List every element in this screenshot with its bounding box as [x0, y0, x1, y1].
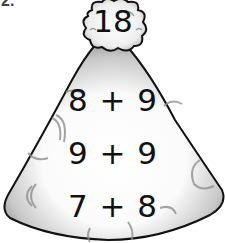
cloud-answer-number: 18: [88, 3, 138, 39]
expression-3: 7 + 8: [0, 188, 226, 224]
expression-1: 8 + 9: [0, 82, 226, 118]
expression-2: 9 + 9: [0, 135, 226, 171]
